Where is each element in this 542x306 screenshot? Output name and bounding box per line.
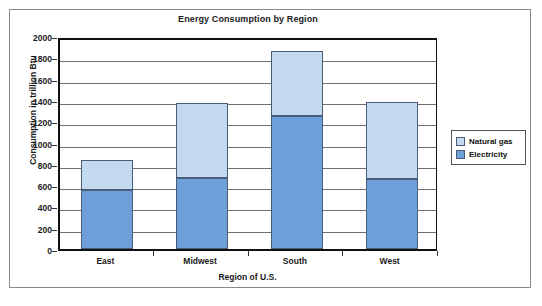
y-tick-label: 800	[6, 161, 52, 171]
y-tick-mark	[52, 145, 57, 146]
y-tick-mark	[52, 81, 57, 82]
bar-segment-natural-gas-west	[366, 102, 418, 179]
x-tick-mark	[248, 251, 249, 256]
bar-segment-electricity-east	[81, 190, 133, 249]
x-tick-mark	[342, 251, 343, 256]
y-tick-label: 2000	[6, 33, 52, 43]
legend-swatch-icon	[456, 150, 465, 159]
y-tick-label: 200	[6, 225, 52, 235]
x-tick-mark	[153, 251, 154, 256]
x-tick-mark	[437, 251, 438, 256]
y-tick-mark	[52, 102, 57, 103]
chart-legend: Natural gasElectricity	[451, 130, 526, 165]
bar-segment-electricity-midwest	[176, 178, 228, 249]
y-tick-label: 1000	[6, 140, 52, 150]
chart-screenshot: Energy Consumption by Region Consumption…	[0, 0, 542, 306]
y-tick-label: 1400	[6, 97, 52, 107]
legend-item-label: Natural gas	[469, 137, 513, 146]
y-tick-mark	[52, 251, 57, 252]
bar-segment-natural-gas-south	[271, 51, 323, 116]
y-tick-label: 1200	[6, 118, 52, 128]
bar-group-east	[81, 36, 133, 249]
y-tick-mark	[52, 187, 57, 188]
plot-area	[58, 38, 437, 251]
bar-group-south	[271, 36, 323, 249]
legend-swatch-icon	[456, 137, 465, 146]
legend-item-electricity[interactable]: Electricity	[456, 148, 521, 160]
y-tick-label: 1800	[6, 54, 52, 64]
x-axis-title: Region of U.S.	[58, 272, 437, 282]
y-tick-mark	[52, 230, 57, 231]
x-tick-label-south: South	[255, 256, 335, 266]
y-tick-mark	[52, 208, 57, 209]
x-tick-label-west: West	[350, 256, 430, 266]
y-tick-mark	[52, 166, 57, 167]
bar-segment-natural-gas-east	[81, 160, 133, 191]
x-tick-label-midwest: Midwest	[160, 256, 240, 266]
y-tick-label: 600	[6, 182, 52, 192]
chart-title: Energy Consumption by Region	[58, 14, 438, 24]
bar-segment-electricity-south	[271, 116, 323, 249]
y-tick-label: 1600	[6, 76, 52, 86]
bar-segment-natural-gas-midwest	[176, 103, 228, 178]
y-tick-mark	[52, 59, 57, 60]
legend-item-natural-gas[interactable]: Natural gas	[456, 135, 521, 147]
y-tick-label: 0	[6, 246, 52, 256]
y-tick-mark	[52, 38, 57, 39]
bar-group-midwest	[176, 36, 228, 249]
y-axis-ticks: 0200400600800100012001400160018002000	[2, 38, 52, 251]
legend-item-label: Electricity	[469, 150, 507, 159]
y-tick-label: 400	[6, 203, 52, 213]
x-tick-label-east: East	[65, 256, 145, 266]
bar-segment-electricity-west	[366, 179, 418, 249]
y-tick-mark	[52, 123, 57, 124]
bar-group-west	[366, 36, 418, 249]
